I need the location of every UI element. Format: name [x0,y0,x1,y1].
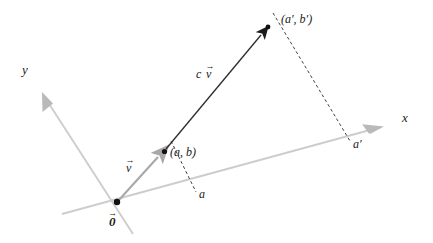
vector-cv-line [166,35,261,149]
x-axis-arrowhead-fill [362,124,384,134]
vector-v-arrow-accent: → [126,155,135,165]
vector-v-line [118,157,158,201]
vector-cv-arrow-accent: → [206,61,215,71]
labels-group: (a, b) (a′, b′) a a′ 0 → [108,12,362,229]
point-ab-dot [162,149,167,154]
axes-group: y x [20,62,408,234]
diagram-canvas: y x v → c v → [0,0,433,243]
point-ab-prime-label: (a′, b′) [281,12,312,26]
x-axis-label: x [401,110,408,125]
point-ab-label: (a, b) [170,145,196,159]
origin-dot [114,199,120,205]
projections-group [171,13,350,192]
point-ab-prime-dot [266,25,271,30]
vector-cv-scalar-label: c [196,67,202,81]
tick-label-a-prime: a′ [353,137,362,151]
vector-scaling-diagram: y x v → c v → [0,0,433,243]
projection-line-a-prime [273,13,350,141]
x-axis-line [62,127,381,214]
origin-arrow-accent: → [108,208,117,218]
tick-label-a: a [199,187,205,201]
y-axis-label: y [20,62,28,77]
vector-cv-group: c v → [166,35,261,149]
y-axis-line [44,96,133,234]
